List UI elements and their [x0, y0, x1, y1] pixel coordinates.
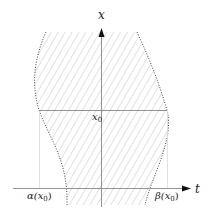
t-axis-label: t: [195, 182, 200, 196]
diagram-canvas: x t x0 α(x0) β(x0): [0, 0, 210, 218]
alpha-x0-label: α(x0): [27, 190, 52, 203]
t-axis-arrow-icon: [182, 186, 191, 192]
x-axis-label: x: [98, 8, 105, 22]
beta-x0-label: β(x0): [154, 190, 179, 203]
